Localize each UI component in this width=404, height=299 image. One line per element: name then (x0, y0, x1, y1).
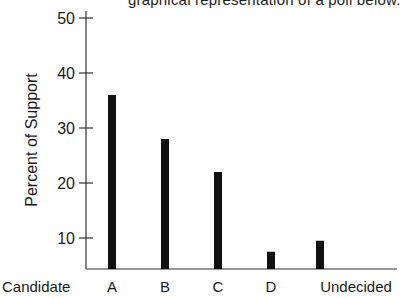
bar-chart: 1020304050 ABCDUndecided Percent of Supp… (0, 0, 404, 299)
y-axis-label: Percent of Support (23, 73, 40, 207)
y-tick-label: 30 (57, 120, 75, 137)
x-axis-label: Candidate (2, 278, 70, 295)
bar-b (161, 139, 169, 269)
x-tick-label: Undecided (320, 278, 392, 295)
bar-c (214, 172, 222, 269)
y-tick-label: 40 (57, 65, 75, 82)
x-tick-label: A (107, 278, 117, 295)
bars (108, 95, 324, 269)
x-axis-labels: ABCDUndecided (107, 278, 392, 295)
y-tick-label: 20 (57, 175, 75, 192)
x-tick-label: C (213, 278, 224, 295)
x-tick-label: B (160, 278, 170, 295)
bar-d (267, 252, 275, 269)
bar-undecided (316, 241, 324, 269)
y-tick-label: 10 (57, 230, 75, 247)
y-tick-label: 50 (57, 10, 75, 27)
x-tick-label: D (266, 278, 277, 295)
bar-a (108, 95, 116, 269)
